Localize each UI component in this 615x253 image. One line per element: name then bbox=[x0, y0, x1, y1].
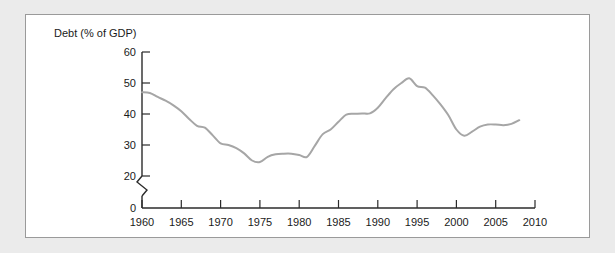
y-axis-break-symbol bbox=[137, 176, 147, 196]
y-tick-label: 60 bbox=[124, 46, 136, 58]
figure-panel: Debt (% of GDP) 02030405060 196019651970… bbox=[25, 14, 590, 238]
debt-series-line bbox=[142, 78, 519, 162]
x-tick-label: 2010 bbox=[523, 216, 547, 228]
x-tick-label: 1990 bbox=[366, 216, 390, 228]
y-axis-ticks bbox=[142, 52, 150, 176]
x-axis-tick-labels: 1960196519701975198019851990199520002005… bbox=[130, 216, 547, 228]
x-tick-label: 1965 bbox=[169, 216, 193, 228]
x-axis-ticks bbox=[142, 200, 535, 208]
x-tick-label: 1995 bbox=[405, 216, 429, 228]
x-tick-label: 2000 bbox=[444, 216, 468, 228]
y-tick-label: 40 bbox=[124, 108, 136, 120]
y-tick-label: 0 bbox=[130, 202, 136, 214]
y-axis-title: Debt (% of GDP) bbox=[54, 27, 137, 39]
y-tick-label: 50 bbox=[124, 77, 136, 89]
x-tick-label: 1985 bbox=[326, 216, 350, 228]
y-tick-label: 20 bbox=[124, 170, 136, 182]
y-tick-label: 30 bbox=[124, 139, 136, 151]
y-axis-tick-labels: 02030405060 bbox=[124, 46, 136, 214]
x-tick-label: 2005 bbox=[483, 216, 507, 228]
x-tick-label: 1980 bbox=[287, 216, 311, 228]
x-tick-label: 1960 bbox=[130, 216, 154, 228]
x-tick-label: 1970 bbox=[208, 216, 232, 228]
x-tick-label: 1975 bbox=[248, 216, 272, 228]
debt-to-gdp-line-chart: Debt (% of GDP) 02030405060 196019651970… bbox=[26, 15, 589, 237]
